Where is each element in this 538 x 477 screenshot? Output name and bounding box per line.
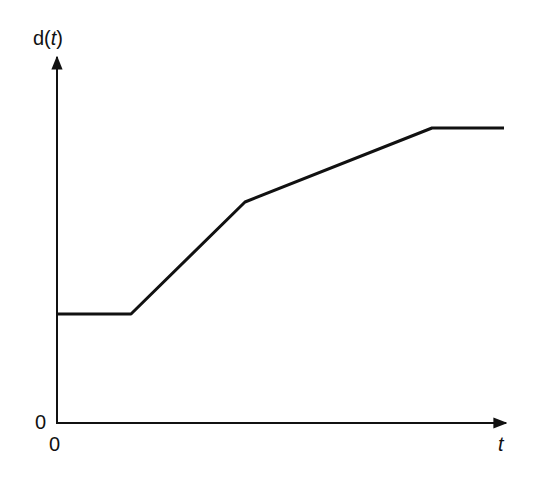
y-axis-label-suffix: ) (56, 27, 63, 49)
chart-canvas (0, 0, 538, 477)
y-axis-label: d(t) (33, 28, 63, 48)
d-of-t-line (57, 128, 504, 314)
y-origin-label: 0 (35, 412, 46, 432)
y-axis-label-prefix: d( (33, 27, 51, 49)
x-axis-label: t (498, 434, 504, 454)
x-origin-label: 0 (49, 434, 60, 454)
